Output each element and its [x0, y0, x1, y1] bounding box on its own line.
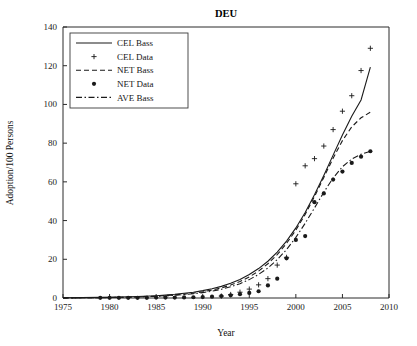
data-point-marker	[182, 295, 186, 299]
data-point-marker	[266, 283, 270, 287]
data-point-marker	[219, 294, 223, 298]
legend-label: NET Bass	[117, 65, 154, 75]
chart-legend: CEL BassCEL DataNET BassNET DataAVE Bass	[70, 33, 188, 108]
data-point-marker	[350, 161, 354, 165]
y-tick-label: 80	[48, 138, 58, 148]
data-point-marker	[126, 296, 130, 300]
data-point-marker	[275, 277, 279, 281]
x-tick-label: 1990	[194, 302, 213, 312]
data-point-marker	[257, 289, 261, 293]
data-point-marker	[173, 296, 177, 300]
data-point-marker	[247, 291, 251, 295]
chart-canvas: DEU 197519801985199019952000200520100204…	[0, 0, 417, 346]
x-tick-label: 1985	[147, 302, 166, 312]
data-point-marker	[303, 234, 307, 238]
x-tick-label: 2005	[333, 302, 352, 312]
y-tick-label: 140	[44, 22, 58, 32]
y-tick-label: 20	[48, 254, 58, 264]
x-tick-label: 1980	[101, 302, 120, 312]
data-point-marker	[238, 292, 242, 296]
data-point-marker	[284, 256, 288, 260]
data-point-marker	[359, 155, 363, 159]
legend-label: NET Data	[117, 79, 154, 89]
y-tick-label: 40	[48, 216, 58, 226]
y-tick-label: 0	[53, 293, 58, 303]
y-tick-label: 60	[48, 177, 58, 187]
data-point-marker	[312, 200, 316, 204]
x-tick-label: 1975	[54, 302, 73, 312]
data-point-marker	[229, 293, 233, 297]
data-point-marker	[340, 169, 344, 173]
data-point-marker	[191, 295, 195, 299]
x-tick-label: 2010	[380, 302, 399, 312]
x-tick-label: 2000	[287, 302, 306, 312]
data-point-marker	[135, 296, 139, 300]
legend-dot-icon	[92, 82, 96, 86]
data-point-marker	[201, 295, 205, 299]
y-tick-label: 120	[44, 61, 58, 71]
legend-label: AVE Bass	[117, 93, 154, 103]
x-axis-title: Year	[217, 328, 235, 338]
chart-title: DEU	[215, 8, 238, 19]
chart-figure: DEU 197519801985199019952000200520100204…	[0, 0, 417, 346]
data-point-marker	[210, 295, 214, 299]
x-tick-label: 1995	[240, 302, 259, 312]
y-tick-label: 100	[44, 99, 58, 109]
legend-label: CEL Data	[117, 52, 153, 62]
y-axis-title: Adoption/100 Persons	[5, 120, 15, 205]
legend-label: CEL Bass	[117, 38, 153, 48]
